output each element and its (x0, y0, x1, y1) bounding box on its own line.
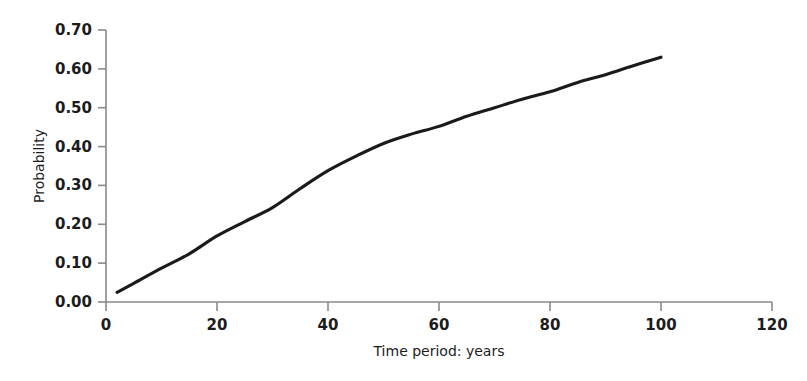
x-tick-label: 100 (645, 316, 676, 334)
x-tick-label: 20 (207, 316, 228, 334)
x-axis-tick-labels: 0 20 40 60 80 100 120 (101, 316, 788, 334)
x-tick-label: 60 (429, 316, 450, 334)
x-tick-label: 120 (756, 316, 787, 334)
chart-canvas: 0.00 0.10 0.20 0.30 0.40 0.50 0.60 0.70 … (0, 0, 807, 381)
x-tick-label: 40 (318, 316, 339, 334)
x-tick-label: 0 (101, 316, 111, 334)
y-tick-label: 0.30 (55, 176, 92, 194)
y-tick-label: 0.60 (55, 60, 92, 78)
x-axis-ticks (106, 302, 772, 311)
y-axis-title: Probability (31, 129, 47, 203)
y-axis-ticks (98, 30, 106, 302)
x-tick-label: 80 (540, 316, 561, 334)
y-tick-label: 0.40 (55, 138, 92, 156)
y-axis-tick-labels: 0.00 0.10 0.20 0.30 0.40 0.50 0.60 0.70 (55, 21, 92, 311)
x-axis-title: Time period: years (372, 343, 504, 359)
y-tick-label: 0.50 (55, 99, 92, 117)
y-tick-label: 0.70 (55, 21, 92, 39)
y-tick-label: 0.10 (55, 254, 92, 272)
y-tick-label: 0.00 (55, 293, 92, 311)
y-tick-label: 0.20 (55, 215, 92, 233)
chart-figure: 0.00 0.10 0.20 0.30 0.40 0.50 0.60 0.70 … (0, 0, 807, 381)
probability-curve (117, 57, 661, 292)
